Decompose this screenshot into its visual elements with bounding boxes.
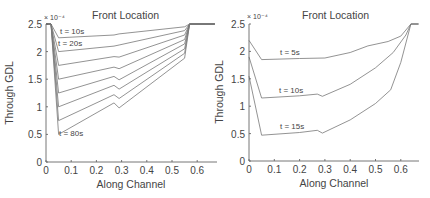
y-tick-label: 0 (239, 156, 245, 167)
y-tick-label: 2 (36, 47, 42, 58)
x-tick-label: 0.4 (140, 165, 154, 176)
x-tick-label: 0.3 (318, 164, 332, 175)
y-tick-label: 1.5 (231, 74, 245, 85)
figure: 00.10.20.30.40.50.600.511.522.5 Front Lo… (0, 0, 430, 198)
y-tick-label: 0.5 (231, 129, 245, 140)
left-chart-title: Front Location (92, 9, 159, 21)
right-series-line (249, 24, 419, 135)
y-tick-label: 2 (239, 46, 245, 57)
right-curve-label-t15: t = 15s (280, 122, 304, 131)
x-tick-label: 0.3 (115, 165, 129, 176)
left-y-axis-label: Through GDL (3, 61, 15, 125)
right-chart-title: Front Location (302, 9, 369, 21)
right-chart: 00.10.20.30.40.50.600.511.522.5 Front Lo… (213, 9, 419, 189)
left-chart: 00.10.20.30.40.50.600.511.522.5 Front Lo… (3, 9, 217, 190)
y-tick-label: 1 (239, 101, 245, 112)
left-curve-label-t20: t = 20s (58, 39, 82, 48)
right-curve-label-t5: t = 5s (280, 48, 300, 57)
right-ticks: 00.10.20.30.40.50.600.511.522.5 (231, 19, 408, 175)
left-y-multiplier: × 10⁻⁴ (44, 14, 65, 21)
x-tick-label: 0.4 (343, 164, 357, 175)
x-tick-label: 0.6 (190, 165, 204, 176)
y-tick-label: 1 (36, 102, 42, 113)
y-tick-label: 0.5 (28, 129, 42, 140)
x-tick-label: 0.6 (394, 164, 408, 175)
x-tick-label: 0.2 (293, 164, 307, 175)
right-y-axis-label: Through GDL (213, 60, 225, 124)
left-curve-label-t10: t = 10s (60, 27, 84, 36)
x-tick-label: 0.1 (64, 165, 78, 176)
right-x-axis-label: Along Channel (300, 177, 369, 189)
right-series-line (249, 24, 419, 98)
y-tick-label: 2.5 (231, 19, 245, 30)
y-tick-label: 0 (36, 157, 42, 168)
right-curve-label-t10: t = 10s (279, 86, 303, 95)
x-tick-label: 0 (246, 164, 252, 175)
x-tick-label: 0 (43, 165, 49, 176)
y-tick-label: 1.5 (28, 74, 42, 85)
right-plot-area (249, 24, 419, 135)
x-tick-label: 0.5 (165, 165, 179, 176)
left-x-axis-label: Along Channel (97, 178, 166, 190)
right-y-multiplier: × 10⁻⁴ (247, 13, 268, 20)
x-tick-label: 0.2 (89, 165, 103, 176)
x-tick-label: 0.5 (369, 164, 383, 175)
right-axes (249, 24, 419, 161)
left-series-line (46, 24, 215, 107)
right-series-line (249, 24, 419, 60)
y-tick-label: 2.5 (28, 19, 42, 30)
x-tick-label: 0.1 (267, 164, 281, 175)
left-curve-label-t80: t = 80s (59, 129, 83, 138)
